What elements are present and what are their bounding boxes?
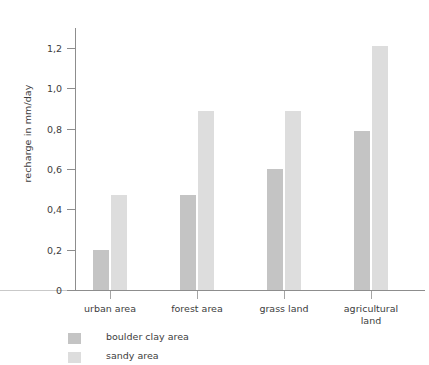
bar	[285, 111, 301, 290]
legend-swatch	[68, 352, 81, 363]
bar	[198, 111, 214, 290]
x-tick-mark	[197, 291, 198, 299]
x-axis-category-label-line: forest area	[147, 303, 247, 315]
x-tick-mark	[110, 291, 111, 299]
legend-label: sandy area	[106, 350, 159, 361]
bar	[93, 250, 109, 290]
bar	[354, 131, 370, 290]
legend-label: boulder clay area	[106, 331, 189, 342]
bar	[267, 169, 283, 290]
x-axis-category-label: forest area	[147, 303, 247, 315]
x-axis-category-label-line: land	[321, 315, 421, 327]
x-axis-category-label-line: grass land	[234, 303, 334, 315]
x-tick-mark	[371, 291, 372, 299]
bar	[111, 195, 127, 290]
bar	[180, 195, 196, 290]
x-tick-mark	[284, 291, 285, 299]
bars-layer	[0, 0, 429, 290]
x-axis-category-label: urban area	[60, 303, 160, 315]
legend-swatch	[68, 333, 81, 344]
x-axis-category-label-line: agricultural	[321, 303, 421, 315]
x-axis-category-label: grass land	[234, 303, 334, 315]
y-tick-mark	[67, 290, 75, 291]
x-axis-line	[75, 290, 425, 291]
bar	[372, 46, 388, 290]
bar-chart: recharge in mm/day 00,20,40,60,81,01,2 u…	[0, 0, 429, 365]
x-axis-category-label-line: urban area	[60, 303, 160, 315]
x-axis-category-label: agriculturalland	[321, 303, 421, 327]
